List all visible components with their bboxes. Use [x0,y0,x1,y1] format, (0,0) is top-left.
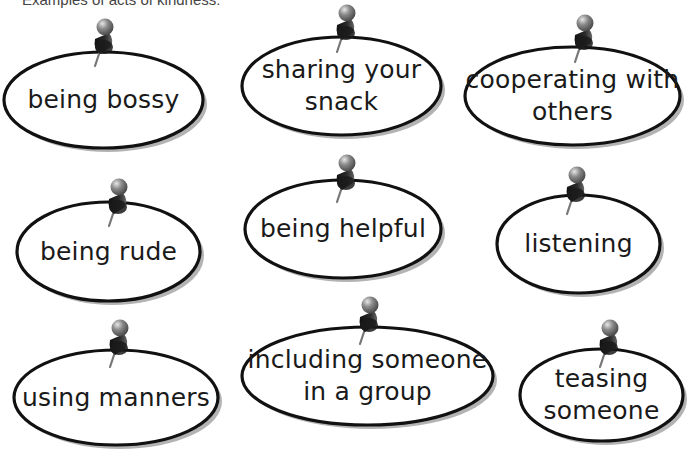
card-label-line: using manners [22,382,210,414]
card-label-line: others [466,96,680,128]
pushpin-icon [555,165,595,215]
card-label-line: in a group [248,376,488,408]
worksheet-heading: Examples of acts of kindness: [22,0,220,8]
card-label-line: being helpful [260,213,426,245]
card-label-line: including someone [248,344,488,376]
pushpin-icon [325,153,365,203]
pushpin-icon [588,318,628,368]
pushpin-icon [97,177,137,227]
pushpin-icon [83,17,123,67]
card-label-line: snack [262,86,422,118]
card-label-line: cooperating with [466,64,680,96]
pushpin-icon [563,13,603,63]
pushpin-icon [98,318,138,368]
card-label-line: sharing your [262,54,422,86]
pushpin-icon [325,3,365,53]
card-label-line: being rude [40,236,177,268]
pushpin-icon [348,295,388,345]
card-label-line: listening [524,228,632,260]
card-label-line: someone [544,395,660,427]
card-label-line: being bossy [27,84,179,116]
